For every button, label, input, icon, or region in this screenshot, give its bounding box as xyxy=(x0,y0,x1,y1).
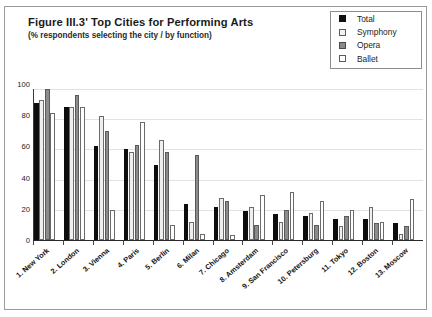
x-tick xyxy=(272,241,273,245)
x-tick xyxy=(63,241,64,245)
bar-group xyxy=(393,89,423,240)
bar-ballet xyxy=(350,210,355,240)
bar-opera xyxy=(374,223,379,240)
bar-group xyxy=(184,89,214,240)
bar-opera xyxy=(284,210,289,240)
bar-symphony xyxy=(219,198,224,240)
bar-opera xyxy=(344,216,349,240)
bar-symphony xyxy=(69,107,74,240)
bar-symphony xyxy=(39,100,44,240)
bar-total xyxy=(124,149,129,240)
bar-ballet xyxy=(80,107,85,240)
bar-symphony xyxy=(189,222,194,240)
bar-group xyxy=(214,89,244,240)
x-tick xyxy=(213,241,214,245)
bar-opera xyxy=(75,95,80,240)
bar-group xyxy=(154,89,184,240)
bar-group xyxy=(333,89,363,240)
x-tick xyxy=(123,241,124,245)
bar-total xyxy=(94,146,99,240)
y-tick-label: 40 xyxy=(22,173,30,182)
x-tick xyxy=(392,241,393,245)
y-axis: 020406080100 xyxy=(10,84,30,240)
bar-ballet xyxy=(290,192,295,240)
bar-ballet xyxy=(110,210,115,240)
bar-ballet xyxy=(140,122,145,240)
bar-total xyxy=(333,219,338,240)
bar-opera xyxy=(314,225,319,240)
x-tick-label: 3. Vienna xyxy=(81,246,111,274)
bar-ballet xyxy=(50,113,55,240)
bar-symphony xyxy=(369,207,374,240)
x-tick-label: 4. Paris xyxy=(115,246,141,270)
x-axis-labels: 1. New York2. London3. Vienna4. Paris5. … xyxy=(33,246,422,306)
bar-total xyxy=(393,223,398,240)
chart-plot: 020406080100 1. New York2. London3. Vien… xyxy=(0,0,432,317)
bar-ballet xyxy=(200,234,205,240)
bar-ballet xyxy=(410,199,415,240)
bar-group xyxy=(363,89,393,240)
y-tick-label: 0 xyxy=(26,236,30,245)
x-tick xyxy=(362,241,363,245)
bar-opera xyxy=(105,131,110,240)
x-tick xyxy=(93,241,94,245)
bar-group xyxy=(243,89,273,240)
bars-layer xyxy=(34,89,423,240)
bar-total xyxy=(184,204,189,240)
bar-total xyxy=(34,103,39,240)
x-tick-label: 2. London xyxy=(49,246,81,276)
bar-symphony xyxy=(129,152,134,240)
bar-symphony xyxy=(99,116,104,240)
bar-total xyxy=(363,219,368,240)
bar-symphony xyxy=(279,222,284,240)
x-tick xyxy=(153,241,154,245)
y-tick-label: 80 xyxy=(22,111,30,120)
bar-total xyxy=(273,214,278,240)
bar-total xyxy=(243,211,248,240)
bar-ballet xyxy=(260,195,265,240)
bar-ballet xyxy=(230,235,235,240)
bar-opera xyxy=(135,145,140,240)
x-tick xyxy=(242,241,243,245)
bar-opera xyxy=(254,225,259,240)
y-tick-label: 100 xyxy=(17,80,30,89)
bar-symphony xyxy=(339,226,344,240)
bar-ballet xyxy=(380,222,385,240)
x-tick xyxy=(183,241,184,245)
bar-ballet xyxy=(170,225,175,240)
bar-group xyxy=(273,89,303,240)
bar-symphony xyxy=(249,207,254,240)
bar-total xyxy=(64,107,69,240)
x-tick xyxy=(33,241,34,245)
bar-group xyxy=(124,89,154,240)
x-tick-label: 1. New York xyxy=(14,246,51,279)
x-tick xyxy=(302,241,303,245)
bar-opera xyxy=(45,89,50,240)
bar-group xyxy=(94,89,124,240)
figure-container: Figure III.3' Top Cities for Performing … xyxy=(0,0,432,317)
y-tick-label: 60 xyxy=(22,142,30,151)
bar-group xyxy=(64,89,94,240)
bar-symphony xyxy=(309,213,314,240)
bar-opera xyxy=(165,152,170,240)
x-tick-label: 5. Berlin xyxy=(143,246,171,272)
plot-area xyxy=(33,89,423,241)
bar-total xyxy=(154,165,159,241)
bar-symphony xyxy=(159,140,164,240)
x-tick-label: 6. Milan xyxy=(174,246,200,270)
bar-opera xyxy=(195,155,200,240)
y-tick-label: 20 xyxy=(22,204,30,213)
bar-opera xyxy=(225,201,230,240)
x-tick xyxy=(332,241,333,245)
bar-group xyxy=(303,89,333,240)
bar-symphony xyxy=(399,234,404,240)
bar-total xyxy=(303,216,308,240)
bar-opera xyxy=(404,226,409,240)
bar-group xyxy=(34,89,64,240)
bar-ballet xyxy=(320,201,325,240)
bar-total xyxy=(214,207,219,240)
